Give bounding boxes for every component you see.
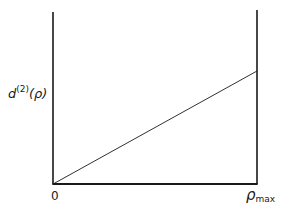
y-label-argument: (ρ) [29, 86, 47, 101]
x-max-label: ρmax [246, 186, 275, 204]
d2-linear-curve [54, 71, 257, 184]
diagram-canvas [0, 0, 281, 209]
x-max-symbol: ρ [246, 186, 256, 204]
y-label-superscript: (2) [16, 84, 29, 94]
y-axis-label: d(2)(ρ) [8, 86, 47, 101]
x-origin-label: 0 [51, 189, 59, 203]
x-max-subscript: max [256, 194, 276, 204]
